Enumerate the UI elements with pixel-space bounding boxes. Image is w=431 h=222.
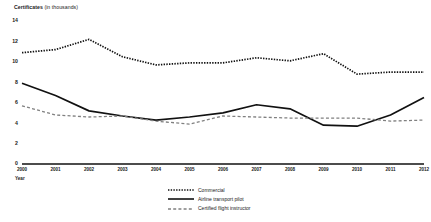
legend-item-certified-flight-instructor: Certified flight instructor — [168, 206, 251, 212]
legend-item-commercial: Commercial — [168, 187, 251, 193]
legend-label-certified-flight-instructor: Certified flight instructor — [198, 206, 251, 211]
legend-swatch-dotted — [168, 187, 194, 193]
series-line-airline-transport-pilot — [22, 83, 424, 126]
series-layer — [22, 39, 424, 126]
line-chart: Certificates (in thousands) 14121086420 … — [0, 0, 431, 222]
chart-legend: Commercial Airline transport pilot Certi… — [168, 187, 251, 212]
legend-label-airline-transport-pilot: Airline transport pilot — [198, 197, 244, 202]
legend-swatch-dashed — [168, 206, 194, 212]
series-line-commercial — [22, 39, 424, 74]
legend-label-commercial: Commercial — [198, 188, 225, 193]
legend-swatch-solid — [168, 196, 194, 202]
legend-item-airline-transport-pilot: Airline transport pilot — [168, 196, 251, 202]
